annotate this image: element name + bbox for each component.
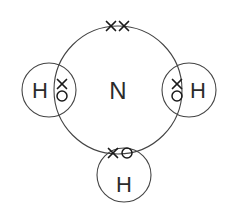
hydrogen-bottom-atom-label: H	[116, 172, 132, 197]
nitrogen-atom-label: N	[109, 77, 126, 104]
molecule-diagram: N H H H	[0, 0, 238, 210]
bond-left-cross-icon	[58, 80, 67, 89]
bond-right-dot-icon	[172, 91, 182, 101]
bond-right-cross-icon	[173, 80, 182, 89]
diagram-canvas: N H H H	[0, 0, 238, 210]
hydrogen-left-shell-circle	[22, 63, 76, 117]
hydrogen-right-atom-label: H	[190, 78, 206, 103]
hydrogen-right-shell-circle	[162, 63, 216, 117]
bond-left-dot-icon	[57, 91, 67, 101]
hydrogen-left-atom-label: H	[32, 78, 48, 103]
